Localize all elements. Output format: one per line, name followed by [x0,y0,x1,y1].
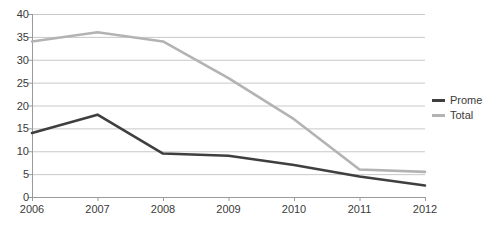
legend-item[interactable]: Total [432,108,483,123]
x-tick-label: 2006 [20,204,44,215]
y-tick-label: 30 [3,54,29,65]
y-tick-label: 25 [3,77,29,88]
chart-canvas [0,0,483,231]
y-axis-labels: 0510152025303540 [0,0,29,231]
legend-label: Total [450,110,473,121]
x-tick-label: 2012 [413,204,437,215]
y-tick-label: 5 [3,169,29,180]
legend-label: Prome [450,95,482,106]
y-tick-label: 20 [3,100,29,111]
y-tick-label: 15 [3,123,29,134]
x-tick-label: 2007 [85,204,109,215]
y-tick-label: 40 [3,9,29,20]
legend-swatch-icon [432,99,445,102]
plot-area: 0510152025303540 20062007200820092010201… [0,0,483,231]
y-tick-label: 35 [3,31,29,42]
line-chart: 0510152025303540 20062007200820092010201… [0,0,483,231]
chart-legend: PromeTotal [432,93,483,123]
legend-item[interactable]: Prome [432,93,483,108]
series-line-total [32,32,425,172]
x-tick-label: 2010 [282,204,306,215]
legend-swatch-icon [432,114,445,117]
x-tick-label: 2009 [216,204,240,215]
y-tick-label: 10 [3,146,29,157]
x-tick-label: 2008 [151,204,175,215]
y-tick-label: 0 [3,192,29,203]
x-tick-label: 2011 [348,204,372,215]
